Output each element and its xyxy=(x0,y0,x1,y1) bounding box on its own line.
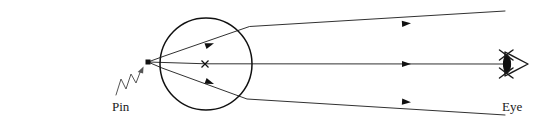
pin-point-icon xyxy=(146,60,151,65)
optics-ray-diagram: Pin Eye xyxy=(0,0,554,123)
eye-icon xyxy=(500,50,529,78)
ray-direction-arrowhead xyxy=(402,61,411,67)
diagram-canvas xyxy=(0,0,554,123)
ray-arrowheads xyxy=(204,20,411,105)
eye-label: Eye xyxy=(502,100,522,113)
ray-bundle xyxy=(148,11,505,115)
ray-direction-arrowhead xyxy=(402,99,411,106)
lower-ray xyxy=(148,62,505,115)
squiggly-pointer-arrow-icon xyxy=(116,65,146,95)
pin-label: Pin xyxy=(112,100,129,113)
axis-ray xyxy=(148,62,505,64)
ray-direction-arrowhead xyxy=(402,20,411,27)
